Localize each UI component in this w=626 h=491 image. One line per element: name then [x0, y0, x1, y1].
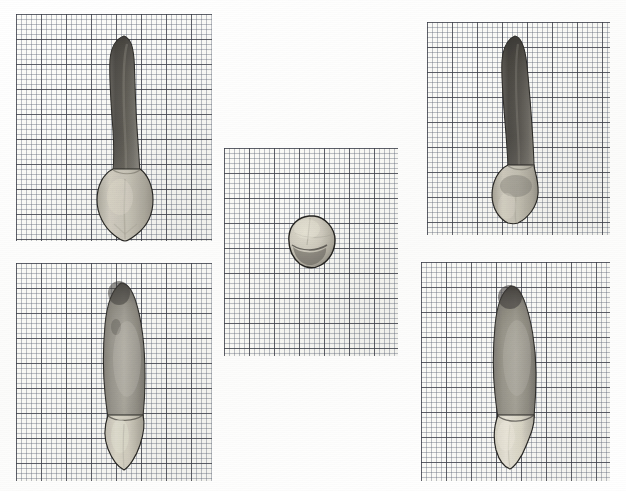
- graph-paper-panel-top-right: [427, 22, 610, 235]
- graph-paper-panel-bottom-left: [16, 263, 212, 481]
- tooth-specimen-incisal-view: [286, 214, 338, 270]
- tooth-specimen-distal-view: [483, 284, 549, 470]
- graph-paper-panel-center: [224, 148, 398, 356]
- tooth-specimen-plate: [0, 0, 626, 491]
- tooth-specimen-mesial-view: [94, 281, 160, 471]
- graph-paper-panel-bottom-right: [421, 262, 610, 481]
- graph-paper-panel-top-left: [16, 14, 212, 241]
- tooth-specimen-palatal-view: [489, 34, 551, 224]
- tooth-specimen-labial-view: [94, 34, 158, 242]
